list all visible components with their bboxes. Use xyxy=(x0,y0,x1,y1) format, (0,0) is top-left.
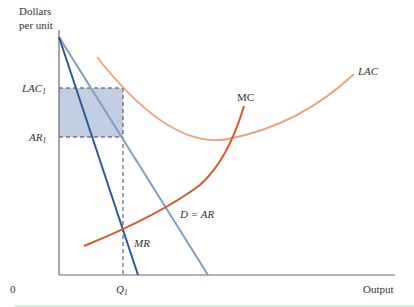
y-axis-label-line1: Dollars xyxy=(19,5,51,17)
mr-label: MR xyxy=(133,237,150,249)
demand-label: D = AR xyxy=(179,208,214,220)
lac-curve xyxy=(97,57,354,140)
x-axis-label: Output xyxy=(363,283,394,295)
lac1-tick-label: LAC1 xyxy=(21,82,46,96)
q1-tick-label: Q1 xyxy=(116,283,128,297)
y-axis-label-line2: per unit xyxy=(19,19,53,31)
economics-diagram: Dollars per unit LAC1 AR1 0 Q1 Output MR… xyxy=(0,0,414,307)
origin-label: 0 xyxy=(10,283,16,295)
loss-area xyxy=(59,88,123,137)
mc-label: MC xyxy=(237,91,254,103)
lac-label: LAC xyxy=(357,65,379,77)
ar1-tick-label: AR1 xyxy=(28,131,46,145)
